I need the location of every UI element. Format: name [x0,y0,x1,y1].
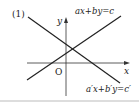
y-axis-label: y [56,16,63,26]
linear-equations-diagram: (1) x y O ax+by=c a′x+b′y=c′ [0,0,139,105]
x-axis-arrow-icon [124,61,130,65]
line-a-prime-x-b-prime-y-c-prime [28,17,120,83]
origin-label: O [55,67,62,77]
line-ax-by-c [27,16,121,80]
figure-label: (1) [12,9,25,19]
equation-label-1: ax+by=c [75,6,114,16]
equation-label-2: a′x+b′y=c′ [86,84,131,94]
y-axis-arrow-icon [64,17,68,23]
x-axis-label: x [124,66,129,76]
